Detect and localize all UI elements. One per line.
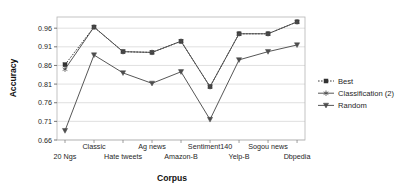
x-axis-label: Corpus xyxy=(157,173,187,183)
x-tick-label: Classic xyxy=(82,142,106,151)
x-tick-label: 20 Ngs xyxy=(54,152,77,161)
y-tick-label: 0.71 xyxy=(38,117,52,126)
y-tick-label: 0.91 xyxy=(38,42,52,51)
x-tick-label: Yelp-B xyxy=(229,152,250,161)
chart-canvas: 0.660.710.760.810.860.910.96 20 NgsClass… xyxy=(0,0,418,191)
x-tick-label: Ag news xyxy=(138,142,166,151)
y-tick-label: 0.81 xyxy=(38,80,52,89)
legend-label-0[interactable]: Best xyxy=(338,77,354,86)
legend-label-2[interactable]: Random xyxy=(338,101,367,110)
data-point-square xyxy=(324,79,328,83)
x-tick-label: Hate tweets xyxy=(104,152,142,161)
y-tick-label: 0.86 xyxy=(38,61,52,70)
x-tick-label: Sogou news xyxy=(248,142,288,151)
data-point-square xyxy=(63,63,67,67)
y-tick-label: 0.66 xyxy=(38,136,52,145)
y-axis-label: Accuracy xyxy=(8,58,18,97)
y-tick-label: 0.96 xyxy=(38,24,52,33)
x-tick-label: Dbpedia xyxy=(284,152,311,161)
y-tick-label: 0.76 xyxy=(38,98,52,107)
legend-label-1[interactable]: Classification (2) xyxy=(338,89,395,98)
x-tick-label: Amazon-B xyxy=(164,152,198,161)
accuracy-vs-corpus-chart: 0.660.710.760.810.860.910.96 20 NgsClass… xyxy=(0,0,418,191)
x-tick-label: Sentiment140 xyxy=(188,142,232,151)
